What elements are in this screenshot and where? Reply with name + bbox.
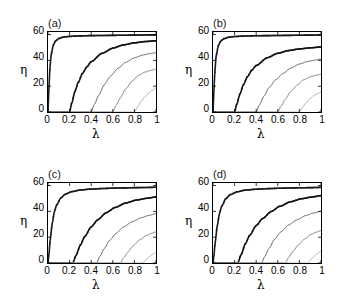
data-marker [317,187,319,189]
panel-d-ytick-60: 60 [188,176,209,187]
data-marker [268,212,270,214]
data-marker [143,187,145,189]
data-marker [306,34,308,36]
data-marker [318,46,320,48]
data-marker [153,187,155,189]
data-marker [87,232,89,234]
data-marker [53,216,55,218]
data-marker [315,196,317,198]
data-marker [277,188,279,190]
data-marker [110,35,112,37]
data-marker [143,34,145,36]
data-marker [139,199,141,201]
data-marker [254,227,256,229]
data-marker [141,34,143,36]
data-marker [123,34,125,36]
panel-c-curve-4 [48,232,156,263]
data-marker [94,222,96,224]
data-marker [94,59,96,61]
data-marker [121,187,123,189]
data-marker [264,35,266,37]
data-marker [297,187,299,189]
data-marker [49,243,51,245]
data-marker [123,187,125,189]
data-marker [141,198,143,199]
data-marker [101,188,103,190]
data-marker [308,197,310,199]
panel-b-ytick-0: 0 [188,103,209,114]
data-marker [272,210,274,212]
data-marker [297,48,299,50]
panel-c-plot [47,182,157,264]
data-marker [125,44,127,46]
data-marker [270,35,272,37]
data-marker [62,37,64,39]
data-marker [257,64,259,66]
data-marker [290,201,292,203]
data-marker [60,197,62,199]
data-marker [304,34,306,36]
data-marker [257,188,259,190]
data-marker [150,40,152,42]
panel-c-ylabel: η [20,214,27,228]
data-marker [81,241,83,243]
data-marker [284,203,286,205]
data-marker [126,187,128,189]
data-marker [71,103,73,105]
panel-d-curve-3 [213,211,321,263]
panel-b-ylabel: η [185,63,192,77]
data-marker [293,200,295,202]
data-marker [317,46,319,48]
data-marker [317,195,319,197]
data-marker [290,35,292,37]
panel-c-ytick-40: 40 [23,202,44,213]
data-marker [248,235,250,237]
data-marker [279,35,281,37]
panel-b-svg [213,32,321,112]
data-marker [112,47,114,49]
data-marker [81,35,83,37]
data-marker [317,34,319,36]
data-marker [148,197,150,199]
panel-d-label: (d) [213,168,226,180]
data-marker [85,35,87,36]
data-marker [71,191,73,193]
data-marker [291,187,293,189]
data-marker [132,34,134,36]
panel-d-ytick-20: 20 [188,228,209,239]
data-marker [146,198,148,200]
data-marker [53,44,55,46]
data-marker [126,44,128,46]
data-marker [261,188,263,190]
data-marker [96,57,98,59]
panel-a-xtick-1: 1 [147,114,167,125]
data-marker [300,187,302,189]
panel-a-plot [47,31,157,113]
data-marker [320,195,321,197]
data-marker [67,36,69,38]
data-marker [311,187,313,189]
data-marker [308,34,310,36]
data-marker [141,41,143,43]
data-marker [56,204,58,206]
data-marker [116,206,118,208]
panel-a-xtick-02: 0.2 [59,114,79,125]
data-marker [225,38,227,40]
data-marker [266,35,268,37]
data-marker [65,36,67,38]
panel-d-xtick-06: 0.6 [268,265,288,276]
panel-c-label: (c) [48,168,61,180]
data-marker [152,197,154,199]
data-marker [228,36,230,38]
panel-c-ytick-20: 20 [23,228,44,239]
panel-b-curve-5 [213,92,321,112]
data-marker [144,34,146,36]
data-marker [248,189,250,191]
data-marker [126,34,128,36]
panel-b-xtick-06: 0.6 [268,114,288,125]
panel-c-xtick-04: 0.4 [81,265,101,276]
data-marker [315,187,317,189]
data-marker [286,50,288,52]
data-marker [288,187,290,189]
panel-c-xtick-1: 1 [147,265,167,276]
